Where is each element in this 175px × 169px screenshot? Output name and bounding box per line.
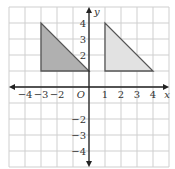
triangle-left (41, 23, 89, 71)
x-tick-label: −2 (50, 89, 65, 100)
x-tick-label: −3 (34, 89, 49, 100)
y-axis-arrow-down-icon (86, 161, 92, 167)
x-tick-label: −4 (18, 89, 33, 100)
y-axis-arrow-up-icon (86, 7, 92, 13)
x-tick-label: 1 (102, 89, 108, 100)
coordinate-plane: −4−3−21234432−2−3−4Oxy (0, 0, 175, 169)
x-tick-label: 3 (134, 89, 140, 100)
y-tick-label: −3 (71, 130, 86, 141)
x-axis-arrow-left-icon (9, 84, 15, 90)
y-tick-label: −4 (71, 146, 86, 157)
x-axis-label: x (164, 89, 170, 100)
y-tick-label: 3 (80, 34, 86, 45)
x-tick-label: 4 (150, 89, 156, 100)
y-axis-label: y (93, 6, 100, 17)
x-tick-label: 2 (118, 89, 124, 100)
y-tick-label: 2 (80, 50, 86, 61)
origin-label: O (77, 89, 85, 100)
y-tick-label: −2 (71, 114, 86, 125)
coordinate-plane-diagram: −4−3−21234432−2−3−4Oxy (0, 0, 175, 169)
triangle-right (105, 23, 153, 71)
y-tick-label: 4 (80, 18, 86, 29)
